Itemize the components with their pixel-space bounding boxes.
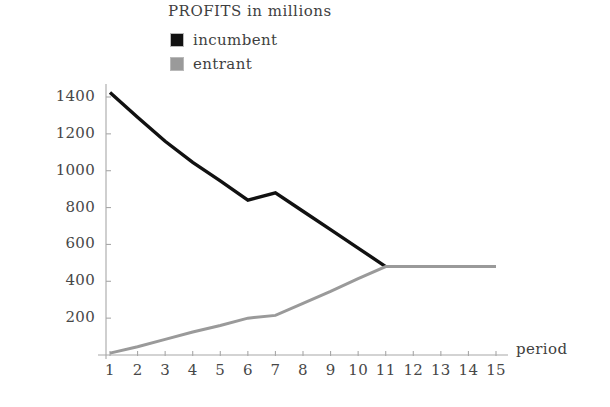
x-axis-tick-label: 2 [125,361,151,379]
y-axis-tick-label: 200 [39,308,95,326]
x-axis-tick-label: 14 [455,361,481,379]
x-axis-tick-label: 5 [207,361,233,379]
x-axis-tick-label: 12 [400,361,426,379]
x-axis-tick-label: 11 [373,361,399,379]
x-axis-tick-label: 13 [428,361,454,379]
x-axis-tick-label: 10 [345,361,371,379]
y-axis-tick-label: 400 [39,271,95,289]
profits-chart: PROFITS in millions incumbent entrant 20… [0,0,610,407]
x-axis-tick-label: 1 [97,361,123,379]
x-axis-tick-label: 8 [290,361,316,379]
x-axis-title: period [516,340,567,358]
series-line-incumbent [110,92,386,266]
y-axis-tick-label: 800 [39,198,95,216]
x-axis-tick-label: 3 [152,361,178,379]
series-line-entrant [110,267,496,354]
y-axis-tick-label: 1400 [39,87,95,105]
x-axis-tick-label: 7 [262,361,288,379]
x-axis-tick-label: 6 [235,361,261,379]
x-axis-tick-label: 15 [483,361,509,379]
y-axis-tick-label: 600 [39,234,95,252]
y-axis-tick-label: 1000 [39,161,95,179]
x-axis-tick-label: 4 [180,361,206,379]
x-axis-tick-label: 9 [318,361,344,379]
y-axis-tick-label: 1200 [39,124,95,142]
